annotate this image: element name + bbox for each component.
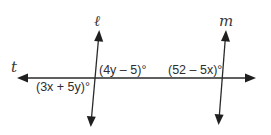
angle-label-3x-plus-5y: (3x + 5y)° — [36, 80, 90, 94]
arrow-down-icon — [87, 116, 96, 127]
angle-label-52-minus-5x: (52 – 5x)° — [168, 63, 222, 77]
parallel-lines-transversal-diagram: t ℓ m (3x + 5y)° (4y – 5)° (52 – 5x)° — [0, 0, 271, 135]
arrow-right-icon — [245, 74, 256, 83]
angle-label-4y-minus-5: (4y – 5)° — [99, 63, 146, 77]
label-t: t — [11, 58, 18, 76]
arrow-up-icon — [221, 30, 230, 42]
arrow-left-icon — [17, 74, 28, 83]
label-m: m — [219, 12, 233, 30]
arrow-up-icon — [94, 30, 103, 42]
label-l: ℓ — [94, 12, 100, 30]
arrow-down-icon — [215, 114, 224, 125]
